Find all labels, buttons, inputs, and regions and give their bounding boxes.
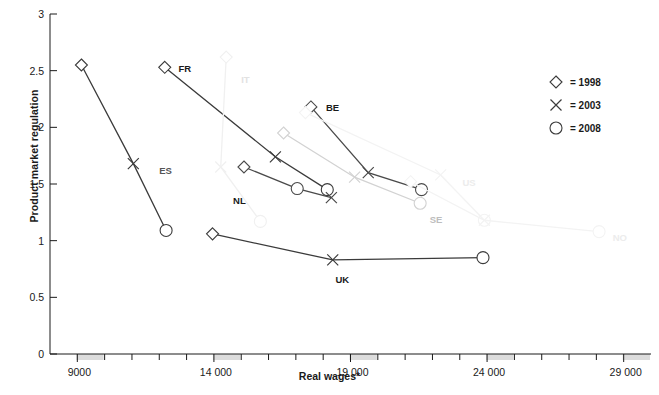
legend-label-2: = 2008 <box>570 123 601 134</box>
series-label-nl: NL <box>233 195 246 206</box>
series-line <box>81 65 166 230</box>
series-se-1998-diamond-marker <box>278 127 290 139</box>
series-it-2008-circle-marker <box>254 215 266 227</box>
series-line <box>305 113 484 221</box>
series-line <box>213 234 483 260</box>
series-layer <box>75 51 605 265</box>
series-it-1998-diamond-marker <box>220 51 232 63</box>
y-ticks: 00.511.522.53 <box>29 8 57 360</box>
y-tick-label: 2.5 <box>29 65 44 77</box>
series-label-no: NO <box>613 232 627 243</box>
y-tick-label: 1 <box>38 235 44 247</box>
series-label-se: SE <box>430 214 443 225</box>
series-es <box>75 59 172 236</box>
series-label-be: BE <box>326 102 339 113</box>
chart-root: Product market regulation Real wages* 90… <box>0 0 659 395</box>
series-nl <box>238 161 337 203</box>
legend-label-0: = 1998 <box>570 77 601 88</box>
series-no-1998-diamond-marker <box>405 176 417 188</box>
x-tick-label: 9000 <box>68 366 92 378</box>
axes <box>50 14 651 354</box>
series-line <box>284 133 421 203</box>
series-line <box>244 167 331 198</box>
y-tick-label: 1.5 <box>29 178 44 190</box>
y-tick-label: 0.5 <box>29 291 44 303</box>
x-axis-band <box>486 354 513 360</box>
series-nl-2008-circle-marker <box>291 183 303 195</box>
series-nl-1998-diamond-marker <box>238 161 250 173</box>
legend-cross-cross-marker <box>551 100 562 111</box>
x-tick-label: 24 000 <box>473 366 505 378</box>
series-us-2003-cross-marker <box>435 169 446 180</box>
y-tick-label: 2 <box>38 121 44 133</box>
x-axis-band <box>623 354 650 360</box>
legend-label-1: = 2003 <box>570 100 601 111</box>
series-se-2003-cross-marker <box>349 172 360 183</box>
y-tick-label: 0 <box>38 348 44 360</box>
series-be-2003-cross-marker <box>363 167 374 178</box>
legend-diamond-diamond-marker <box>550 76 562 88</box>
chart-canvas: 900014 00019 00024 00029 000 00.511.522.… <box>0 0 659 395</box>
series-se-2008-circle-marker <box>414 197 426 209</box>
x-axis-bands <box>76 354 650 360</box>
series-se <box>278 127 427 209</box>
series-label-it: IT <box>241 74 250 85</box>
y-tick-label: 3 <box>38 8 44 20</box>
series-label-fr: FR <box>178 63 191 74</box>
series-es-2008-circle-marker <box>160 224 172 236</box>
series-uk-1998-diamond-marker <box>207 228 219 240</box>
series-line <box>311 107 422 190</box>
series-label-uk: UK <box>335 274 349 285</box>
series-uk-2008-circle-marker <box>477 252 489 264</box>
x-tick-label: 14 000 <box>200 366 232 378</box>
series-uk <box>207 228 489 266</box>
x-axis-band <box>213 354 240 360</box>
legend: = 1998= 2003= 2008 <box>550 76 601 134</box>
series-no <box>405 176 605 238</box>
series-labels: ESFRNLBESEUKITUSNO <box>159 63 627 285</box>
series-es-1998-diamond-marker <box>75 59 87 71</box>
series-no-2008-circle-marker <box>593 226 605 238</box>
series-es-2003-cross-marker <box>128 158 139 169</box>
x-tick-label: 19 000 <box>336 366 368 378</box>
series-fr-2003-cross-marker <box>270 151 281 162</box>
x-axis-band <box>350 354 377 360</box>
legend-circle-circle-marker <box>550 122 562 134</box>
x-tick-label: 29 000 <box>610 366 642 378</box>
series-label-es: ES <box>159 165 172 176</box>
x-axis-band <box>76 354 103 360</box>
series-label-us: US <box>463 177 476 188</box>
